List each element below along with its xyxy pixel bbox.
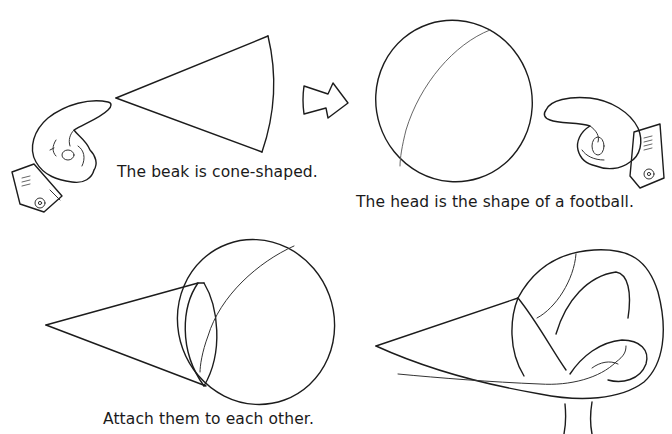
pointing-hand-left-icon bbox=[544, 98, 664, 189]
drawing-canvas bbox=[0, 0, 672, 434]
pointing-hand-right-icon bbox=[12, 101, 111, 212]
cone-illustration bbox=[116, 36, 274, 152]
caption-head: The head is the shape of a football. bbox=[356, 193, 634, 211]
refined-head-illustration bbox=[376, 250, 663, 434]
football-illustration bbox=[355, 0, 553, 202]
caption-attach: Attach them to each other. bbox=[103, 410, 314, 428]
caption-beak: The beak is cone-shaped. bbox=[117, 163, 318, 181]
arrow-right-icon bbox=[303, 83, 348, 118]
attached-illustration bbox=[46, 217, 358, 426]
